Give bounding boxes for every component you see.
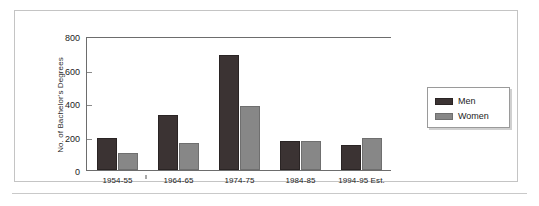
bar-men-1974-75 xyxy=(219,55,239,170)
bar-men-1984-85 xyxy=(280,141,300,170)
legend-item-men: Men xyxy=(435,95,476,108)
y-tick-mark xyxy=(87,72,92,73)
bar-men-1994-95-est- xyxy=(341,145,361,170)
y-tick-label: 200 xyxy=(47,134,87,144)
chart-figure: No. of Bachelor's Degrees 8006004002000 … xyxy=(14,10,518,182)
y-tick-label: 400 xyxy=(47,100,87,110)
legend-item-women: Women xyxy=(435,110,489,123)
legend-label: Women xyxy=(458,111,489,122)
stray-mark xyxy=(145,175,147,179)
page-canvas: No. of Bachelor's Degrees 8006004002000 … xyxy=(0,0,539,206)
x-tick-label: 1954-55 xyxy=(102,176,132,185)
bar-group xyxy=(158,36,199,170)
x-tick-label: 1984-85 xyxy=(285,176,315,185)
bar-group xyxy=(97,36,138,170)
bar-women-1984-85 xyxy=(301,141,321,170)
bar-women-1954-55 xyxy=(118,153,138,170)
y-tick-label: 0 xyxy=(47,167,87,177)
bar-group xyxy=(280,36,321,170)
bar-women-1964-65 xyxy=(179,143,199,170)
legend-swatch-women xyxy=(435,113,453,120)
y-tick-mark xyxy=(87,105,92,106)
bar-men-1954-55 xyxy=(97,138,117,170)
bar-group xyxy=(341,36,382,170)
bar-women-1994-95-est- xyxy=(362,138,382,170)
x-tick-label: 1974-75 xyxy=(224,176,254,185)
legend-label: Men xyxy=(458,96,476,107)
bar-men-1964-65 xyxy=(158,115,178,170)
x-tick-label: 1994-95 Est. xyxy=(338,176,385,185)
plot-area: No. of Bachelor's Degrees 8006004002000 … xyxy=(86,37,391,171)
y-tick-label: 800 xyxy=(47,33,87,43)
legend-swatch-men xyxy=(435,98,453,105)
y-tick-mark xyxy=(87,139,92,140)
x-tick-label: 1964-65 xyxy=(163,176,193,185)
y-tick-label: 600 xyxy=(47,67,87,77)
page-divider xyxy=(12,193,527,194)
bar-group xyxy=(219,36,260,170)
bar-women-1974-75 xyxy=(240,106,260,170)
chart-legend: MenWomen xyxy=(427,87,510,128)
